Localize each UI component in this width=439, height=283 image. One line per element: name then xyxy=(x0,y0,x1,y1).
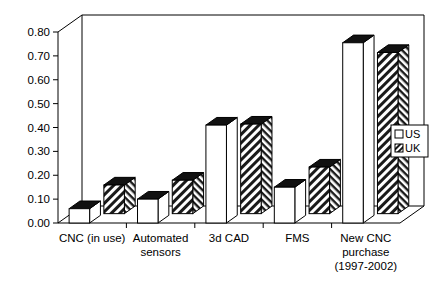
x-axis-label: CNC (in use) xyxy=(59,232,126,244)
legend-swatch-uk xyxy=(395,144,403,152)
y-tick-label: 0.10 xyxy=(28,193,50,205)
chart-legend[interactable]: US UK xyxy=(391,125,428,157)
bar-us-3 xyxy=(274,180,305,223)
bar-us-1 xyxy=(138,191,169,223)
chart-container: 0.000.100.200.300.400.500.600.700.80 CNC… xyxy=(0,0,439,283)
x-axis-label: purchase xyxy=(342,246,389,258)
bar-uk-2 xyxy=(241,116,272,213)
y-tick-label: 0.30 xyxy=(28,145,50,157)
bar-chart: 0.000.100.200.300.400.500.600.700.80 CNC… xyxy=(0,0,439,283)
y-tick-label: 0.00 xyxy=(28,217,50,229)
y-tick-label: 0.70 xyxy=(28,50,50,62)
y-tick-label: 0.50 xyxy=(28,98,50,110)
x-axis-label: New CNC xyxy=(340,232,391,244)
legend-label-uk: UK xyxy=(405,142,421,154)
y-tick-label: 0.40 xyxy=(28,122,50,134)
y-tick-label: 0.60 xyxy=(28,74,50,86)
bar-uk-3 xyxy=(309,159,340,213)
x-axis-label: sensors xyxy=(140,246,181,258)
x-axis-label: (1997-2002) xyxy=(334,260,397,272)
x-axis-label: 3d CAD xyxy=(209,232,249,244)
bar-uk-0 xyxy=(104,177,135,213)
bar-uk-1 xyxy=(172,173,203,214)
y-tick-label: 0.80 xyxy=(28,26,50,38)
x-axis-label: Automated xyxy=(133,232,189,244)
legend-swatch-us xyxy=(395,130,403,138)
bar-us-4 xyxy=(343,35,374,223)
bar-us-2 xyxy=(206,117,237,223)
legend-label-us: US xyxy=(405,128,420,140)
y-tick-label: 0.20 xyxy=(28,169,50,181)
x-axis-label: FMS xyxy=(285,232,310,244)
